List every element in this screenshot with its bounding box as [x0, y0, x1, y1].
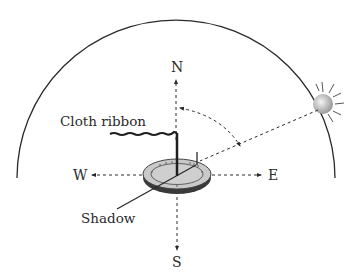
north-label: N: [171, 60, 183, 74]
west-label: W: [73, 168, 87, 182]
cloth-ribbon-label: Cloth ribbon: [60, 115, 146, 129]
wavy-ribbon-icon: [110, 132, 177, 135]
sun-ray-line: [200, 110, 318, 161]
azimuth-angle-arc: [180, 108, 240, 146]
east-label: E: [268, 168, 278, 182]
sun-icon: [313, 82, 344, 122]
sundial-diagram: N S W E Cloth ribbon Shadow: [0, 0, 352, 280]
shadow-label: Shadow: [81, 212, 135, 226]
sundial-icon: [117, 152, 211, 209]
diagram-graphics: [0, 0, 352, 280]
south-label: S: [172, 255, 182, 269]
